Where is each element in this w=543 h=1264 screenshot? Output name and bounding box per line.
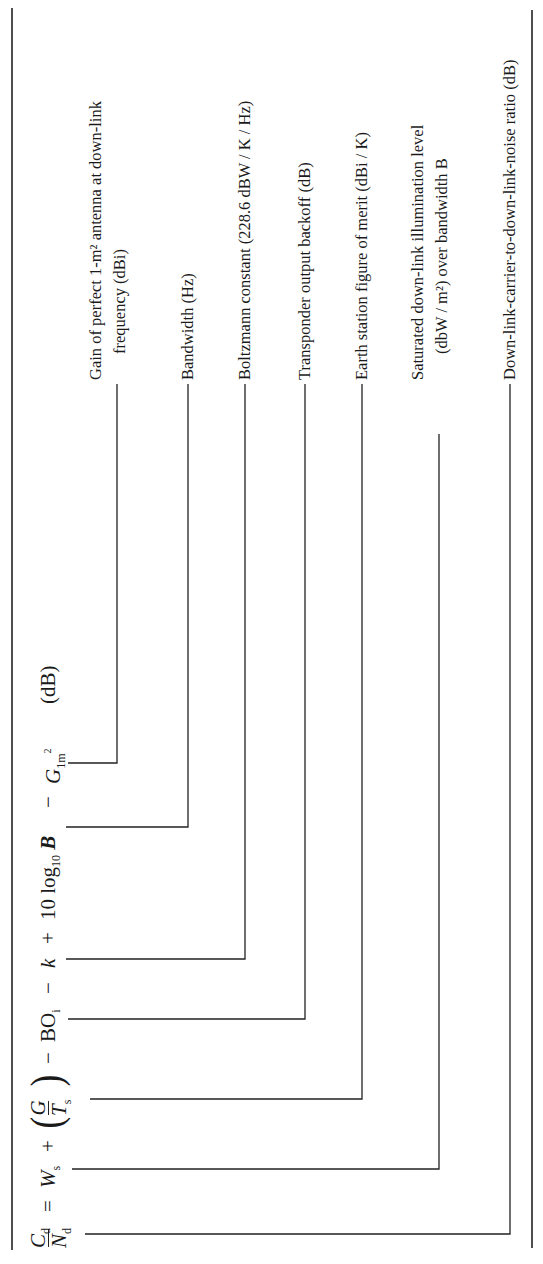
label-line: Saturated down-link illumination level	[406, 125, 430, 380]
lhs-denominator: N	[47, 1234, 71, 1248]
equation: Cd Nd = Ws + ( G Ts ) − BOi − k + 10 log…	[28, 0, 68, 1264]
label-line: (dbW / m²) over bandwidth B	[430, 125, 454, 380]
leader-backoff	[68, 384, 305, 1019]
term-g-over-ts: G Ts	[28, 1100, 69, 1116]
leader-lines	[0, 0, 543, 1264]
lhs-denominator-sub: d	[60, 1228, 74, 1234]
label-boltzmann: Boltzmann constant (228.6 dBW / K / Hz)	[234, 101, 256, 380]
term-bandwidth: 10 log10 B	[28, 836, 76, 920]
equation-unit: (dB)	[28, 666, 68, 705]
paren-right: )	[25, 1075, 69, 1087]
operator-plus: +	[28, 1140, 68, 1152]
term-ws: Ws	[28, 1166, 76, 1188]
label-line: frequency (dBi)	[108, 101, 132, 380]
lhs-fraction: Cd Nd	[28, 1228, 69, 1248]
term-k: k	[28, 959, 68, 968]
label-cn-ratio: Down-link-carrier-to-down-link-noise rat…	[499, 60, 521, 380]
equals-sign: =	[28, 1200, 68, 1212]
term-g1m2: G1m2	[28, 748, 81, 784]
operator-minus: −	[28, 982, 68, 994]
leader-illumination	[72, 434, 439, 1169]
leader-bandwidth	[66, 384, 188, 827]
operator-minus: −	[28, 1052, 68, 1064]
leader-figure-of-merit	[90, 384, 362, 1099]
leader-cn-ratio	[85, 384, 510, 1234]
label-bandwidth: Bandwidth (Hz)	[177, 273, 199, 380]
leader-boltzmann	[66, 384, 245, 959]
term-boi: BOi	[28, 1009, 76, 1042]
label-backoff: Transponder output backoff (dB)	[294, 162, 316, 380]
paren-left: (	[25, 1117, 69, 1129]
label-figure-of-merit: Earth station figure of merit (dBi / K)	[351, 132, 373, 380]
label-line: Gain of perfect 1-m² antenna at down-lin…	[84, 101, 108, 380]
operator-minus: −	[28, 796, 68, 808]
leader-g1m2	[68, 384, 117, 763]
label-illumination: Saturated down-link illumination level (…	[406, 125, 454, 380]
operator-plus: +	[28, 932, 68, 944]
equation-diagram: Cd Nd = Ws + ( G Ts ) − BOi − k + 10 log…	[0, 0, 543, 1264]
label-g1m2: Gain of perfect 1-m² antenna at down-lin…	[84, 101, 132, 380]
